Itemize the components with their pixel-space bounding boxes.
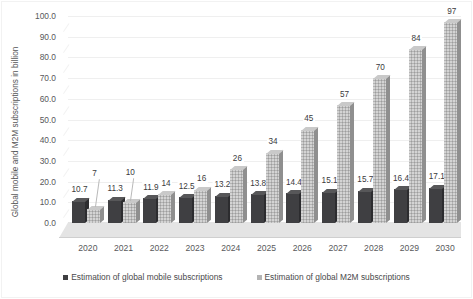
plot-floor-front-edge <box>59 237 461 238</box>
data-label: 57 <box>339 89 351 99</box>
y-axis-title: Global mobile and M2M subscriptions in b… <box>8 12 24 252</box>
bar-face <box>358 191 371 223</box>
bar-face <box>266 153 279 223</box>
bar-mobile-2023[interactable] <box>179 197 192 223</box>
bar-mobile-2028[interactable] <box>358 191 371 223</box>
y-axis-tick-label: 50.0 <box>24 115 56 125</box>
data-label: 10.7 <box>70 185 89 195</box>
bar-m2m-2028[interactable] <box>373 78 386 223</box>
data-label: 84 <box>410 33 422 43</box>
data-label: 26 <box>231 153 243 163</box>
data-label-leader-line <box>95 179 100 207</box>
bar-m2m-2026[interactable] <box>301 130 314 223</box>
data-label: 14 <box>160 178 172 188</box>
bar-mobile-2030[interactable] <box>429 188 442 223</box>
bar-group: 15.157 <box>318 16 354 223</box>
y-axis-tick-label: 70.0 <box>24 73 56 83</box>
legend-item-mobile[interactable]: Estimation of global mobile subscription… <box>63 272 222 282</box>
data-label: 16 <box>196 174 208 184</box>
data-label: 7 <box>91 169 99 179</box>
bar-face <box>286 193 299 223</box>
bar-series-container: 10.7711.31011.91412.51613.22613.83414.44… <box>68 16 461 223</box>
bar-side <box>457 19 461 223</box>
y-axis-tick-label: 10.0 <box>24 197 56 207</box>
bar-m2m-2020[interactable] <box>87 209 100 223</box>
y-axis-tick-label: 0.0 <box>24 218 56 228</box>
bar-mobile-2027[interactable] <box>322 192 335 223</box>
y-axis-tick-label: 90.0 <box>24 32 56 42</box>
bar-chart: Global mobile and M2M subscriptions in b… <box>0 0 473 299</box>
bar-face <box>143 198 156 223</box>
bar-m2m-2025[interactable] <box>266 153 279 223</box>
x-axis-tick-label: 2020 <box>78 243 97 253</box>
y-axis-tick-label: 30.0 <box>24 156 56 166</box>
x-axis-tick-label: 2027 <box>328 243 347 253</box>
bar-face <box>123 202 136 223</box>
bar-m2m-2027[interactable] <box>337 105 350 223</box>
x-axis-tick-label: 2029 <box>400 243 419 253</box>
data-label-leader-line <box>130 178 134 201</box>
legend-swatch-icon <box>63 275 68 280</box>
bar-mobile-2020[interactable] <box>72 201 85 223</box>
bar-face <box>394 189 407 223</box>
bar-mobile-2022[interactable] <box>143 198 156 223</box>
bar-mobile-2024[interactable] <box>215 196 228 223</box>
bar-group: 16.484 <box>390 16 426 223</box>
chart-legend: Estimation of global mobile subscription… <box>0 270 473 284</box>
bar-mobile-2026[interactable] <box>286 193 299 223</box>
bar-face <box>215 196 228 223</box>
legend-swatch-icon <box>257 275 262 280</box>
legend-label: Estimation of global M2M subscriptions <box>265 272 410 282</box>
bar-group: 13.226 <box>211 16 247 223</box>
bar-face <box>251 194 264 223</box>
bar-face <box>72 201 85 223</box>
data-label: 10 <box>124 168 136 178</box>
bar-face <box>179 197 192 223</box>
x-axis-tick-label: 2023 <box>185 243 204 253</box>
bar-face <box>337 105 350 223</box>
data-label: 70 <box>374 62 386 72</box>
x-axis-tick-label: 2022 <box>150 243 169 253</box>
bar-face <box>373 78 386 223</box>
x-axis-tick-labels: 2020202120222023202420252026202720282029… <box>59 243 461 257</box>
bar-group: 13.834 <box>247 16 283 223</box>
bar-face <box>108 200 121 223</box>
bar-m2m-2029[interactable] <box>409 49 422 223</box>
bar-mobile-2029[interactable] <box>394 189 407 223</box>
legend-label: Estimation of global mobile subscription… <box>71 272 222 282</box>
y-axis-tick-label: 20.0 <box>24 177 56 187</box>
y-axis-tick-label: 100.0 <box>24 11 56 21</box>
bar-m2m-2024[interactable] <box>230 169 243 223</box>
bar-face <box>87 209 100 223</box>
y-axis-tick-label: 80.0 <box>24 52 56 62</box>
y-axis-tick-labels: 0.010.020.030.040.050.060.070.080.090.01… <box>24 16 56 238</box>
bar-m2m-2022[interactable] <box>158 194 171 223</box>
bar-group: 17.197 <box>425 16 461 223</box>
bar-m2m-2030[interactable] <box>444 22 457 223</box>
bar-face <box>230 169 243 223</box>
x-axis-tick-label: 2026 <box>293 243 312 253</box>
y-axis-tick-label: 60.0 <box>24 94 56 104</box>
legend-item-m2m[interactable]: Estimation of global M2M subscriptions <box>257 272 410 282</box>
data-label: 45 <box>303 114 315 124</box>
bar-face <box>429 188 442 223</box>
bar-face <box>301 130 314 223</box>
bar-face <box>444 22 457 223</box>
bar-group: 11.914 <box>139 16 175 223</box>
bar-m2m-2021[interactable] <box>123 202 136 223</box>
x-axis-tick-label: 2028 <box>364 243 383 253</box>
bar-face <box>322 192 335 223</box>
data-label: 11.9 <box>142 182 160 192</box>
x-axis-tick-label: 2021 <box>114 243 133 253</box>
bar-group: 10.77 <box>68 16 104 223</box>
data-label: 34 <box>267 137 279 147</box>
bar-mobile-2021[interactable] <box>108 200 121 223</box>
data-label: 97 <box>446 6 458 16</box>
bar-group: 15.770 <box>354 16 390 223</box>
plot-area: 10.7711.31011.91412.51613.22613.83414.44… <box>59 16 461 238</box>
x-axis-tick-label: 2024 <box>221 243 240 253</box>
bar-m2m-2023[interactable] <box>194 190 207 223</box>
bar-mobile-2025[interactable] <box>251 194 264 223</box>
bar-face <box>158 194 171 223</box>
bar-group: 11.310 <box>104 16 140 223</box>
